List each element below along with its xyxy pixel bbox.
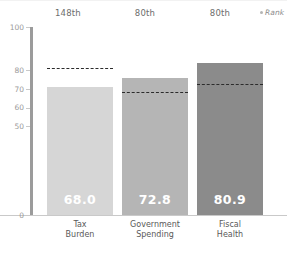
top-divider	[0, 0, 287, 1]
bar-value-government-spending: 72.8	[122, 192, 188, 207]
y-axis-spine	[30, 27, 33, 215]
y-tick-mark-70	[26, 89, 30, 90]
bar-fiscal-health[interactable]: 80.9	[197, 63, 263, 215]
category-label-government-spending: Government Spending	[113, 220, 197, 240]
x-axis-spine	[0, 215, 287, 216]
bar-value-tax-burden: 68.0	[47, 192, 113, 207]
reference-line-government-spending	[122, 92, 188, 93]
y-tick-label-80: 80	[6, 66, 24, 75]
y-tick-label-0: 0	[6, 211, 24, 220]
reference-line-tax-burden	[47, 68, 113, 69]
bar-tax-burden[interactable]: 68.0	[47, 87, 113, 215]
bar-government-spending[interactable]: 72.8	[122, 78, 188, 215]
rank-label-government-spending: 80th	[108, 8, 182, 18]
y-tick-label-50: 50	[6, 122, 24, 131]
rank-legend: Rank	[260, 8, 284, 17]
y-tick-mark-80	[26, 70, 30, 71]
y-tick-label-70: 70	[6, 85, 24, 94]
rank-label-fiscal-health: 80th	[183, 8, 257, 18]
category-label-tax-burden: Tax Burden	[47, 220, 113, 240]
rank-legend-label: Rank	[265, 8, 284, 17]
reference-line-fiscal-health	[197, 84, 263, 85]
y-tick-mark-100	[26, 27, 30, 28]
y-tick-mark-0	[26, 215, 30, 216]
bar-chart: 148th 80th 80th Rank 100 80 70 60 50 0 6…	[0, 0, 287, 258]
y-tick-mark-60	[26, 108, 30, 109]
bar-value-fiscal-health: 80.9	[197, 192, 263, 207]
y-tick-label-60: 60	[6, 103, 24, 112]
category-label-fiscal-health: Fiscal Health	[197, 220, 263, 240]
dot-icon	[260, 11, 263, 14]
y-tick-mark-50	[26, 126, 30, 127]
y-tick-label-100: 100	[6, 23, 24, 32]
rank-label-tax-burden: 148th	[31, 8, 105, 18]
